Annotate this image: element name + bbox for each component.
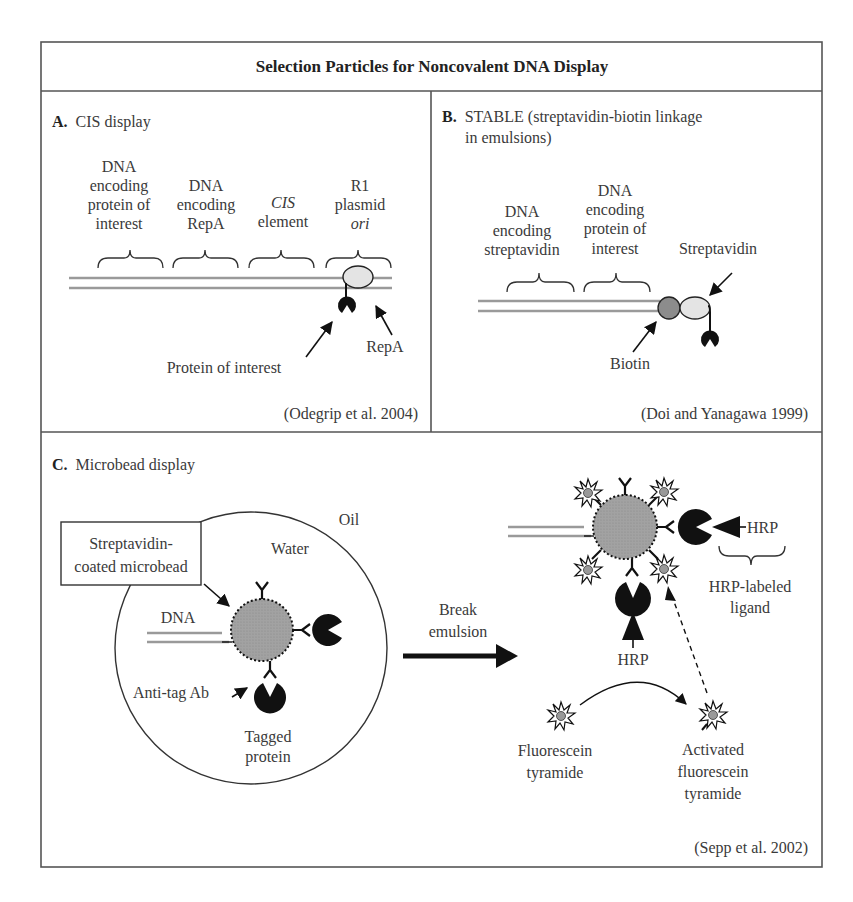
svg-text:interest: interest	[591, 240, 639, 257]
brace-icon	[249, 250, 314, 268]
antibody-icon	[626, 559, 638, 576]
svg-text:DNA: DNA	[598, 182, 633, 199]
panel-c-letter: C.	[52, 456, 68, 473]
citation-c: (Sepp et al. 2002)	[694, 839, 808, 857]
brace-icon	[719, 546, 785, 565]
arrow-icon	[710, 273, 732, 295]
svg-text:ori: ori	[351, 215, 370, 232]
panel-b: B. STABLE (streptavidin-biotin linkage i…	[442, 108, 808, 423]
panel-c-heading: Microbead display	[76, 456, 196, 474]
antibody-icon	[657, 521, 674, 533]
microbead-icon	[593, 495, 657, 559]
label-streptavidin: Streptavidin	[679, 240, 757, 258]
svg-text:encoding: encoding	[177, 196, 236, 214]
svg-text:interest: interest	[95, 215, 143, 232]
svg-text:HRP-labeled: HRP-labeled	[709, 578, 792, 595]
panel-a: A. CIS display DNA encoding protein of i…	[52, 113, 418, 423]
brace-icon	[584, 273, 650, 292]
hrp-triangle-icon	[712, 516, 746, 538]
panel-a-heading: CIS display	[76, 113, 151, 131]
panel-c: C. Microbead display Oil Water Streptavi…	[52, 456, 808, 857]
svg-text:C. Microbead display: C. Microbead display	[52, 456, 195, 474]
segment-label-protein-of-interest-b: DNA encoding protein of interest	[584, 182, 647, 257]
svg-text:Streptavidin-: Streptavidin-	[89, 535, 173, 553]
label-anti-tag-ab: Anti-tag Ab	[133, 684, 209, 702]
svg-text:DNA: DNA	[189, 177, 224, 194]
svg-text:DNA: DNA	[102, 158, 137, 175]
label-water: Water	[271, 540, 309, 557]
svg-text:protein: protein	[245, 748, 290, 766]
fluorescein-star-icon	[651, 478, 678, 506]
segment-label-r1-ori: R1 plasmid ori	[335, 177, 386, 232]
label-hrp-right: HRP	[747, 519, 778, 536]
svg-text:CIS: CIS	[271, 194, 295, 211]
ligand-protein-icon	[678, 509, 712, 545]
svg-text:DNA: DNA	[505, 203, 540, 220]
arrow-icon	[306, 322, 332, 357]
ligand-protein-icon	[615, 582, 651, 617]
microbead-icon	[231, 599, 293, 661]
svg-text:A. CIS display: A. CIS display	[52, 113, 151, 131]
brace-icon	[173, 250, 238, 268]
svg-text:encoding: encoding	[586, 201, 645, 219]
label-repa: RepA	[366, 338, 404, 356]
citation-a: (Odegrip et al. 2004)	[284, 405, 418, 423]
svg-text:encoding: encoding	[493, 222, 552, 240]
segment-label-protein-of-interest: DNA encoding protein of interest	[88, 158, 151, 232]
conversion-arrow	[580, 682, 686, 705]
svg-text:protein of: protein of	[584, 220, 647, 238]
antibody-icon	[619, 478, 631, 495]
svg-text:element: element	[258, 213, 309, 230]
svg-text:Activated: Activated	[682, 741, 744, 758]
activated-star-icon	[700, 701, 727, 729]
protein-of-interest-icon	[701, 331, 719, 347]
svg-text:RepA: RepA	[187, 215, 225, 233]
svg-text:protein of: protein of	[88, 196, 151, 214]
svg-text:B. STABLE (streptavidin-: B. STABLE (streptavidin-biotin linkage	[442, 108, 702, 126]
brace-icon	[326, 250, 391, 268]
svg-text:R1: R1	[351, 177, 370, 194]
label-biotin: Biotin	[610, 355, 650, 372]
arrow-icon	[376, 306, 392, 335]
citation-b: (Doi and Yanagawa 1999)	[641, 405, 808, 423]
svg-text:tyramide: tyramide	[685, 785, 742, 803]
panel-b-letter: B.	[442, 108, 457, 125]
svg-text:ligand: ligand	[730, 599, 770, 617]
brace-icon	[98, 250, 163, 268]
segment-label-repa: DNA encoding RepA	[177, 177, 236, 233]
break-emulsion-arrow-icon	[403, 644, 518, 668]
segment-label-cis-element: CIS element	[258, 194, 309, 230]
panel-b-heading: STABLE (streptavidin-biotin linkage	[465, 108, 703, 126]
fluorescein-star-icon	[651, 555, 678, 583]
hrp-triangle-icon	[622, 612, 644, 648]
figure-canvas: Selection Particles for Noncovalent DNA …	[0, 0, 853, 902]
arrow-icon	[633, 322, 656, 352]
label-hrp-bottom: HRP	[617, 651, 648, 668]
dashed-arrow	[672, 596, 707, 693]
svg-text:streptavidin: streptavidin	[484, 241, 560, 259]
svg-text:fluorescein: fluorescein	[677, 763, 748, 780]
label-protein-of-interest: Protein of interest	[167, 359, 282, 376]
brace-icon	[507, 273, 574, 292]
label-dna: DNA	[161, 609, 196, 626]
protein-of-interest-icon	[338, 297, 356, 313]
streptavidin-icon	[680, 297, 710, 319]
svg-text:emulsion: emulsion	[429, 623, 488, 640]
label-oil: Oil	[339, 511, 360, 528]
microbead-callout-box	[61, 522, 201, 585]
svg-text:coated microbead: coated microbead	[74, 558, 187, 575]
svg-text:Break: Break	[439, 601, 477, 618]
svg-text:Tagged: Tagged	[245, 728, 292, 746]
fluorescein-star-icon	[548, 702, 575, 730]
panel-a-letter: A.	[52, 113, 68, 130]
svg-text:tyramide: tyramide	[527, 764, 584, 782]
fluorescein-star-icon	[575, 556, 602, 584]
svg-text:plasmid: plasmid	[335, 196, 386, 214]
repa-protein-icon	[343, 266, 373, 288]
segment-label-streptavidin: DNA encoding streptavidin	[484, 203, 560, 259]
svg-text:Fluorescein: Fluorescein	[518, 742, 593, 759]
biotin-icon	[658, 297, 680, 319]
panel-b-heading-line2: in emulsions)	[465, 129, 552, 147]
arrowhead-icon	[665, 586, 676, 601]
figure-title: Selection Particles for Noncovalent DNA …	[256, 57, 609, 76]
